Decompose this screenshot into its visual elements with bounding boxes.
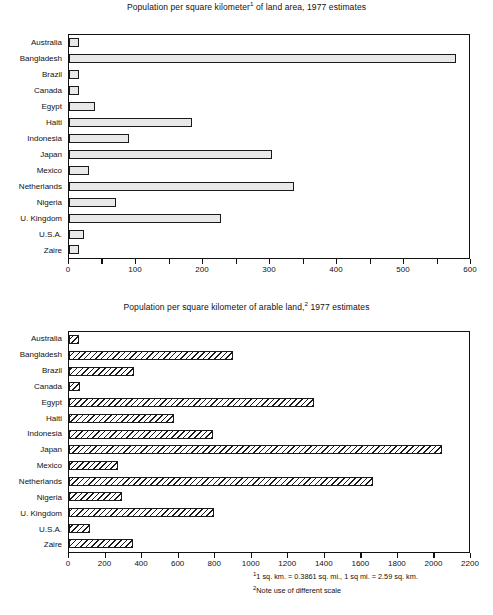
chart-title-text-before: Population per square kilometer of arabl… — [123, 302, 304, 312]
x-axis-label: 600 — [463, 265, 476, 274]
bar-row — [69, 86, 469, 95]
plot-area-arable-land — [68, 331, 470, 553]
bar — [69, 214, 221, 223]
footnotes: 11 sq. km. = 0.3861 sq. mi., 1 sq mi. = … — [253, 569, 488, 597]
x-axis-ticks-arable-land — [68, 553, 470, 558]
x-axis-label: 400 — [134, 559, 147, 568]
bar-row — [69, 118, 469, 127]
bar-row — [69, 367, 469, 376]
x-axis-label: 2000 — [425, 559, 443, 568]
bar-row — [69, 398, 469, 407]
bar — [69, 430, 213, 439]
footnote-text-2: Note use of different scale — [256, 586, 341, 595]
bar — [69, 230, 84, 239]
bar-row — [69, 245, 469, 254]
bar — [69, 382, 80, 391]
x-axis-tick — [251, 553, 252, 558]
bar — [69, 198, 116, 207]
bar-row — [69, 445, 469, 454]
x-axis-label: 1600 — [351, 559, 369, 568]
x-axis-label: 1400 — [315, 559, 333, 568]
bar-rows-arable-land — [69, 332, 469, 552]
bar — [69, 539, 133, 548]
y-axis-label: Canada — [0, 382, 66, 391]
y-axis-label: U. Kingdom — [0, 214, 66, 223]
y-axis-label: Australia — [0, 38, 66, 47]
x-axis-tick — [68, 259, 69, 264]
bar-row — [69, 524, 469, 533]
x-axis-tick — [336, 259, 337, 264]
x-axis-label: 500 — [396, 265, 409, 274]
bar-row — [69, 539, 469, 548]
y-axis-label: Bangladesh — [0, 350, 66, 359]
x-axis-tick — [360, 553, 361, 558]
bar-row — [69, 477, 469, 486]
bar-row — [69, 414, 469, 423]
bar — [69, 102, 95, 111]
chart-title-text-after: of land area, 1977 estimates — [254, 2, 367, 12]
x-axis-tick — [169, 259, 170, 264]
x-axis-tick — [437, 259, 438, 264]
x-axis-tick — [470, 553, 471, 558]
y-axis-label: Indonesia — [0, 429, 66, 438]
footnote-1: 11 sq. km. = 0.3861 sq. mi., 1 sq mi. = … — [253, 569, 488, 583]
x-axis-label: 200 — [195, 265, 208, 274]
bar-row — [69, 430, 469, 439]
x-axis-tick — [68, 553, 69, 558]
x-axis-labels-land-area: 0100200300400500600 — [68, 265, 470, 277]
bar-row — [69, 182, 469, 191]
y-axis-label: U.S.A. — [0, 525, 66, 534]
y-axis-label: Brazil — [0, 70, 66, 79]
y-axis-label: Haiti — [0, 414, 66, 423]
y-axis-label: Canada — [0, 86, 66, 95]
bar-row — [69, 492, 469, 501]
x-axis-tick — [141, 553, 142, 558]
x-axis-tick — [214, 553, 215, 558]
footnote-2: 2Note use of different scale — [253, 583, 488, 597]
bar-row — [69, 230, 469, 239]
bar — [69, 477, 373, 486]
y-axis-label: Indonesia — [0, 134, 66, 143]
bar — [69, 134, 129, 143]
x-axis-label: 100 — [128, 265, 141, 274]
x-axis-tick — [303, 259, 304, 264]
bar — [69, 70, 79, 79]
x-axis-label: 800 — [207, 559, 220, 568]
bar-rows-land-area — [69, 35, 469, 258]
bar — [69, 150, 272, 159]
x-axis-tick — [101, 259, 102, 264]
chart-land-area: Population per square kilometer1 of land… — [0, 0, 493, 290]
bar — [69, 398, 314, 407]
x-axis-tick — [433, 553, 434, 558]
x-axis-tick — [287, 553, 288, 558]
x-axis-label: 0 — [66, 559, 70, 568]
bar — [69, 335, 79, 344]
bar-row — [69, 382, 469, 391]
bar — [69, 54, 456, 63]
bar — [69, 182, 294, 191]
y-axis-label: Zaire — [0, 540, 66, 549]
bar-row — [69, 150, 469, 159]
y-axis-label: Mexico — [0, 461, 66, 470]
y-axis-label: U. Kingdom — [0, 509, 66, 518]
y-axis-label: Netherlands — [0, 182, 66, 191]
y-axis-label: Netherlands — [0, 477, 66, 486]
plot-area-land-area — [68, 34, 470, 259]
bar — [69, 245, 79, 254]
y-axis-label: Egypt — [0, 398, 66, 407]
bar-row — [69, 134, 469, 143]
chart-title-arable-land: Population per square kilometer of arabl… — [0, 300, 493, 312]
footnote-text-1: 1 sq. km. = 0.3861 sq. mi., 1 sq mi. = 2… — [256, 572, 417, 581]
bar-row — [69, 70, 469, 79]
y-axis-label: Mexico — [0, 166, 66, 175]
bar-row — [69, 166, 469, 175]
bar — [69, 166, 89, 175]
bar-row — [69, 335, 469, 344]
y-axis-label: Bangladesh — [0, 54, 66, 63]
x-axis-tick — [370, 259, 371, 264]
bar-row — [69, 198, 469, 207]
x-axis-label: 400 — [329, 265, 342, 274]
bar — [69, 351, 233, 360]
x-axis-label: 0 — [66, 265, 70, 274]
x-axis-ticks-land-area — [68, 259, 470, 264]
